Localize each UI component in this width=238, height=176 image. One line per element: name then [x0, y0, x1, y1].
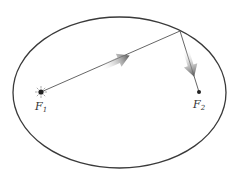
- ellipse-diagram: F1 F2: [0, 0, 238, 176]
- focus1-label: F1: [34, 100, 47, 114]
- focus2-label: F2: [192, 98, 206, 112]
- focus2-dot-icon: [197, 90, 201, 94]
- reflected-arrow-icon: [179, 46, 201, 79]
- ellipse-outline: [13, 17, 226, 168]
- light-source-icon: [35, 86, 47, 98]
- incident-arrow-icon: [98, 49, 133, 75]
